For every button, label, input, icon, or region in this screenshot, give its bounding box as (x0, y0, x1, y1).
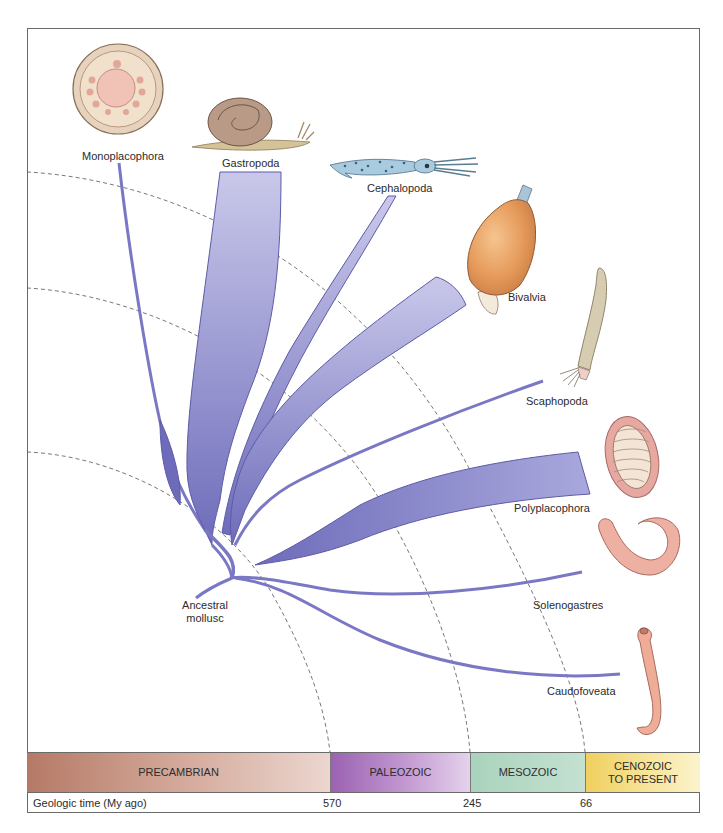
taxon-label-gastropoda: Gastropoda (222, 157, 279, 169)
tick-245: 245 (463, 797, 481, 809)
time-axis-label: Geologic time (My ago) (33, 797, 147, 809)
time-axis-row: Geologic time (My ago) 570 245 66 (27, 793, 700, 813)
taxon-label-caudofoveata: Caudofoveata (547, 685, 616, 697)
chiton-icon (598, 411, 666, 502)
taxon-label-cephalopoda: Cephalopoda (367, 182, 432, 194)
taxon-label-solenogastres: Solenogastres (533, 599, 603, 611)
era-label-mesozoic: MESOZOIC (499, 766, 558, 779)
era-mesozoic: MESOZOIC (470, 753, 585, 792)
era-paleozoic: PALEOZOIC (330, 753, 470, 792)
tick-66: 66 (580, 797, 592, 809)
root-label: Ancestral mollusc (180, 599, 230, 625)
geologic-timeline: PRECAMBRIAN PALEOZOIC MESOZOIC CENOZOIC … (27, 752, 700, 793)
root-label-line-2: mollusc (180, 612, 230, 625)
tick-570: 570 (323, 797, 341, 809)
taxon-label-bivalvia: Bivalvia (508, 291, 546, 303)
caudofoveate-worm-icon (637, 628, 661, 735)
era-precambrian: PRECAMBRIAN (27, 753, 330, 792)
phylogeny-diagram (0, 0, 723, 833)
taxon-label-scaphopoda: Scaphopoda (526, 395, 588, 407)
snail-icon (192, 98, 314, 150)
solenogaster-worm-icon (599, 518, 680, 575)
squid-icon (330, 158, 478, 178)
root-label-line-1: Ancestral (180, 599, 230, 612)
tusk-shell-icon (560, 268, 607, 387)
monoplacophoran-shell-icon (73, 44, 163, 134)
era-label-precambrian: PRECAMBRIAN (138, 766, 219, 779)
branch-root (196, 578, 232, 598)
era-label-cenozoic-line2: TO PRESENT (608, 773, 678, 786)
taxon-label-monoplacophora: Monoplacophora (82, 150, 164, 162)
era-label-paleozoic: PALEOZOIC (369, 766, 431, 779)
era-cenozoic: CENOZOIC TO PRESENT (585, 753, 700, 792)
taxon-label-polyplacophora: Polyplacophora (514, 502, 590, 514)
era-label-cenozoic: CENOZOIC (608, 760, 678, 773)
